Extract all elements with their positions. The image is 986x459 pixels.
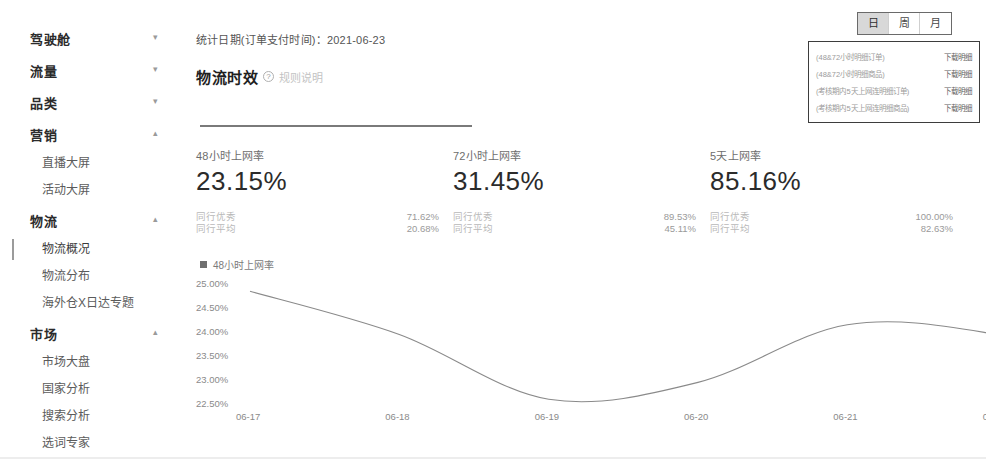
download-link[interactable]: 下载明细	[944, 102, 972, 113]
download-row-label: (考核期内5天上网连明细商品)	[816, 102, 938, 113]
sidebar-item-label: 物流概况	[42, 242, 90, 256]
sidebar-item-market-overview[interactable]: 市场大盘	[0, 349, 180, 376]
sidebar-group-label: 品类	[30, 93, 57, 112]
sidebar-item-logistics-distribution[interactable]: 物流分布	[0, 263, 180, 290]
kpi-card-5d: 5天上网率 85.16% 同行优秀 100.00% 同行平均 82.63%	[710, 147, 967, 235]
kpi-compare-value: 82.63%	[921, 223, 953, 235]
kpi-compare-row: 同行优秀 71.62%	[196, 211, 439, 223]
kpi-label: 48小时上网率	[196, 147, 439, 163]
download-row-48-72-orders[interactable]: (48&72小时明细订单) 下载明细	[809, 48, 979, 65]
sidebar-item-overseas-warehouse[interactable]: 海外仓X日达专题	[0, 290, 180, 317]
sidebar-item-keyword-expert[interactable]: 选词专家	[0, 430, 180, 457]
kpi-compare-name: 同行平均	[196, 223, 236, 235]
info-icon[interactable]: ?	[263, 71, 274, 82]
kpi-card-72h: 72小时上网率 31.45% 同行优秀 89.53% 同行平均 45.11%	[453, 147, 710, 235]
kpi-row: 48小时上网率 23.15% 同行优秀 71.62% 同行平均 20.68% 7…	[196, 147, 986, 235]
sidebar-group-label: 驾驶舱	[30, 29, 71, 48]
sidebar-item-label: 活动大屏	[42, 183, 90, 197]
x-axis-tick-label: 06-20	[684, 411, 708, 422]
kpi-compare-name: 同行平均	[453, 223, 493, 235]
sidebar-item-label: 搜索分析	[42, 409, 90, 423]
page-title: 物流时效	[196, 66, 258, 87]
download-link[interactable]: 下载明细	[944, 51, 972, 62]
period-tab-group[interactable]: 日 周 月	[857, 12, 952, 35]
series-line-48h	[250, 291, 986, 402]
download-panel: (48&72小时明细订单) 下载明细 (48&72小时明细商品) 下载明细 (考…	[808, 41, 980, 123]
sidebar-item-country-analysis[interactable]: 国家分析	[0, 376, 180, 403]
x-axis-tick-label: 06-21	[833, 411, 857, 422]
sidebar-item-logistics-overview[interactable]: 物流概况	[0, 236, 180, 263]
chart-plot-area: 25.00%24.50%24.00%23.50%23.00%22.50%	[196, 278, 986, 410]
line-chart-svg	[196, 278, 986, 410]
kpi-compare-name: 同行平均	[710, 223, 750, 235]
y-axis-tick-label: 23.50%	[196, 350, 228, 361]
chevron-icon: ▴	[153, 328, 158, 337]
y-axis-tick-label: 22.50%	[196, 398, 228, 409]
sidebar-item-live-screen[interactable]: 直播大屏	[0, 150, 180, 177]
sidebar-item-label: 海外仓X日达专题	[42, 296, 134, 310]
kpi-label: 72小时上网率	[453, 147, 696, 163]
kpi-compare-row: 同行平均 45.11%	[453, 223, 696, 235]
kpi-compare-name: 同行优秀	[453, 211, 493, 223]
rule-description-link[interactable]: 规则说明	[279, 69, 323, 85]
sidebar-group-label: 营销	[30, 125, 57, 144]
chevron-icon: ▾	[153, 97, 158, 106]
y-axis-tick-label: 24.00%	[196, 326, 228, 337]
kpi-compare-value: 71.62%	[407, 211, 439, 223]
tab-week[interactable]: 周	[889, 13, 920, 34]
tab-day[interactable]: 日	[858, 13, 889, 34]
y-axis-tick-label: 24.50%	[196, 302, 228, 313]
download-row-label: (48&72小时明细订单)	[816, 51, 938, 62]
download-row-label: (48&72小时明细商品)	[816, 68, 938, 79]
kpi-compare-name: 同行优秀	[710, 211, 750, 223]
kpi-value: 85.16%	[710, 166, 953, 197]
sidebar: 驾驶舱 ▾ 流量 ▾ 品类 ▾ 营销 ▴ 直播大屏 活动大屏 物流 ▴ 物流概况	[0, 0, 180, 459]
logistics-dashboard-page: 驾驶舱 ▾ 流量 ▾ 品类 ▾ 营销 ▴ 直播大屏 活动大屏 物流 ▴ 物流概况	[0, 0, 986, 459]
kpi-compare-value: 45.11%	[664, 223, 696, 235]
download-link[interactable]: 下载明细	[944, 85, 972, 96]
kpi-card-48h: 48小时上网率 23.15% 同行优秀 71.62% 同行平均 20.68%	[196, 147, 453, 235]
tab-divider	[196, 125, 986, 128]
legend-swatch-icon	[200, 261, 207, 268]
kpi-compare-list: 同行优秀 89.53% 同行平均 45.11%	[453, 211, 696, 235]
sidebar-item-label: 市场大盘	[42, 355, 90, 369]
download-row-5d-orders[interactable]: (考核期内5天上网连明细订单) 下载明细	[809, 82, 979, 99]
sidebar-group-category[interactable]: 品类 ▾	[0, 86, 180, 118]
kpi-compare-value: 100.00%	[915, 211, 953, 223]
sidebar-group-label: 流量	[30, 61, 57, 80]
kpi-compare-value: 89.53%	[664, 211, 696, 223]
x-axis-tick-label: 06-19	[535, 411, 559, 422]
kpi-label: 5天上网率	[710, 147, 953, 163]
kpi-compare-row: 同行优秀 100.00%	[710, 211, 953, 223]
sidebar-group-market[interactable]: 市场 ▴	[0, 317, 180, 349]
sidebar-group-cockpit[interactable]: 驾驶舱 ▾	[0, 22, 180, 54]
kpi-compare-list: 同行优秀 100.00% 同行平均 82.63%	[710, 211, 953, 235]
sidebar-item-label: 国家分析	[42, 382, 90, 396]
tab-month[interactable]: 月	[920, 13, 951, 34]
y-axis-tick-label: 25.00%	[196, 278, 228, 289]
x-axis-tick-label: 06-17	[236, 411, 260, 422]
sidebar-group-marketing[interactable]: 营销 ▴	[0, 118, 180, 150]
sidebar-item-campaign-screen[interactable]: 活动大屏	[0, 177, 180, 204]
sidebar-group-traffic[interactable]: 流量 ▾	[0, 54, 180, 86]
sidebar-group-logistics[interactable]: 物流 ▴	[0, 204, 180, 236]
y-axis-tick-label: 23.00%	[196, 374, 228, 385]
chart-legend[interactable]: 48小时上网率	[200, 257, 986, 272]
kpi-compare-row: 同行优秀 89.53%	[453, 211, 696, 223]
chevron-icon: ▾	[153, 33, 158, 42]
sidebar-item-label: 直播大屏	[42, 156, 90, 170]
kpi-compare-row: 同行平均 82.63%	[710, 223, 953, 235]
x-axis-tick-label: 06-22	[983, 411, 986, 422]
sidebar-item-label: 选词专家	[42, 436, 90, 450]
legend-label: 48小时上网率	[213, 257, 274, 272]
x-axis-tick-label: 06-18	[385, 411, 409, 422]
trend-chart-block: 48小时上网率 25.00%24.50%24.00%23.50%23.00%22…	[196, 257, 986, 427]
download-link[interactable]: 下载明细	[944, 68, 972, 79]
sidebar-item-search-analysis[interactable]: 搜索分析	[0, 403, 180, 430]
download-row-label: (考核期内5天上网连明细订单)	[816, 85, 938, 96]
sidebar-group-label: 市场	[30, 324, 57, 343]
kpi-compare-value: 20.68%	[407, 223, 439, 235]
kpi-value: 23.15%	[196, 166, 439, 197]
download-row-48-72-products[interactable]: (48&72小时明细商品) 下载明细	[809, 65, 979, 82]
download-row-5d-products[interactable]: (考核期内5天上网连明细商品) 下载明细	[809, 99, 979, 116]
